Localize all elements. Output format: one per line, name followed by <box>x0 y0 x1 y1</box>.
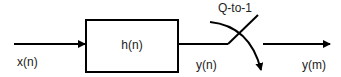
filter-output-label: y(n) <box>196 58 217 72</box>
decimator-diagram: x(n) h(n) y(n) Q-to-1 y(m) <box>0 0 341 77</box>
switch-label: Q-to-1 <box>218 1 252 15</box>
switch-rotation-arrow <box>210 22 261 70</box>
output-label: y(m) <box>302 58 326 72</box>
filter-label: h(n) <box>121 38 142 52</box>
input-label: x(n) <box>17 55 38 69</box>
